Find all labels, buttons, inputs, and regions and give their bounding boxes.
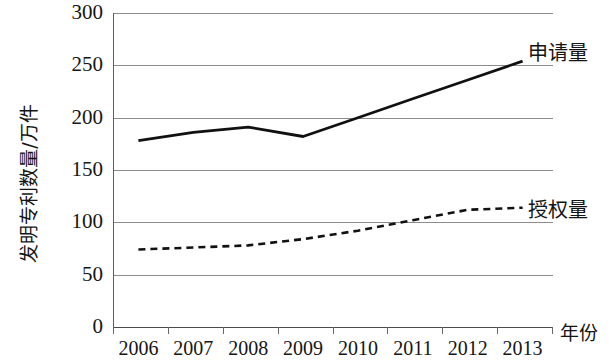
y-tick-label: 0 bbox=[31, 316, 103, 337]
x-tick bbox=[497, 327, 498, 334]
series-label-grants: 授权量 bbox=[528, 194, 588, 223]
x-axis-end-cap bbox=[113, 327, 114, 334]
x-tick-label: 2013 bbox=[483, 336, 563, 360]
x-axis-line bbox=[114, 327, 553, 328]
plot-area bbox=[113, 13, 552, 327]
y-tick-label: 150 bbox=[31, 159, 103, 180]
series-label-applications: 申请量 bbox=[528, 37, 588, 66]
gridline bbox=[114, 13, 553, 14]
x-axis-title: 年份 bbox=[560, 318, 598, 345]
y-tick-label: 50 bbox=[31, 264, 103, 285]
gridline bbox=[114, 170, 553, 171]
y-tick-label: 300 bbox=[31, 2, 103, 23]
x-axis-end-cap bbox=[552, 327, 553, 334]
y-tick-label: 100 bbox=[31, 211, 103, 232]
gridline bbox=[114, 222, 553, 223]
x-tick bbox=[387, 327, 388, 334]
invention-patent-line-chart: 发明专利数量/万件 050100150200250300 20062007200… bbox=[0, 0, 611, 363]
gridline bbox=[114, 275, 553, 276]
gridline bbox=[114, 118, 553, 119]
x-tick bbox=[168, 327, 169, 334]
x-tick bbox=[223, 327, 224, 334]
x-tick bbox=[442, 327, 443, 334]
gridline bbox=[114, 65, 553, 66]
y-tick-label: 200 bbox=[31, 107, 103, 128]
x-tick bbox=[333, 327, 334, 334]
y-tick-label: 250 bbox=[31, 54, 103, 75]
x-tick bbox=[278, 327, 279, 334]
